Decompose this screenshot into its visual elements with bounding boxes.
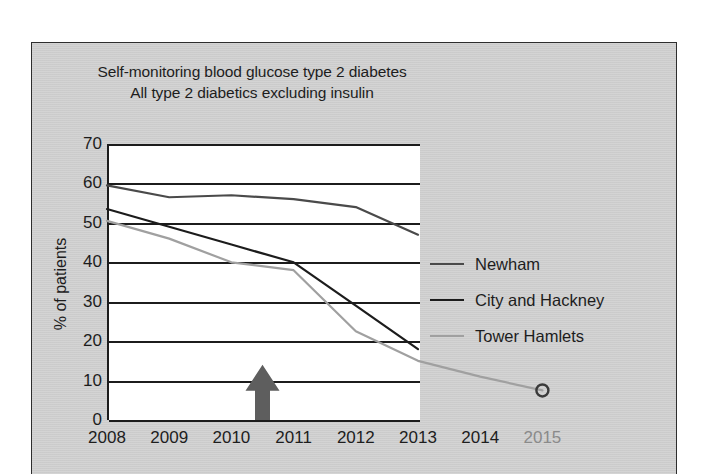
chart-title-line-2: All type 2 diabetics excluding insulin bbox=[32, 82, 472, 103]
legend-line-swatch-icon bbox=[430, 335, 464, 337]
y-tick-label-60: 60 bbox=[83, 173, 102, 193]
x-tick-label-2011: 2011 bbox=[275, 428, 312, 448]
chart-title: Self-monitoring blood glucose type 2 dia… bbox=[32, 61, 472, 103]
legend-item-label: Newham bbox=[475, 255, 540, 274]
x-tick-label-2015: 2015 bbox=[523, 428, 561, 448]
gridline-0 bbox=[109, 420, 420, 422]
x-tick-label-2013: 2013 bbox=[399, 428, 437, 448]
gridline-40 bbox=[109, 262, 420, 264]
gridline-50 bbox=[109, 223, 420, 225]
y-tick-label-50: 50 bbox=[83, 213, 102, 233]
legend-item-label: Tower Hamlets bbox=[475, 327, 584, 346]
plot-area: 706050403020100 bbox=[107, 144, 420, 420]
legend-item-tower-hamlets[interactable]: Tower Hamlets bbox=[430, 318, 660, 354]
gridline-60 bbox=[109, 183, 420, 185]
legend-item-newham[interactable]: Newham bbox=[430, 246, 660, 282]
legend-line-swatch-icon bbox=[430, 263, 464, 265]
x-axis-ticks: 20082009201020112012201320142015 bbox=[32, 428, 676, 458]
y-tick-label-40: 40 bbox=[83, 252, 102, 272]
x-tick-label-2014: 2014 bbox=[461, 428, 499, 448]
y-tick-label-70: 70 bbox=[83, 134, 102, 154]
x-tick-label-2009: 2009 bbox=[150, 428, 188, 448]
y-tick-label-30: 30 bbox=[83, 292, 102, 312]
legend-item-label: City and Hackney bbox=[475, 291, 604, 310]
legend-item-city-and-hackney[interactable]: City and Hackney bbox=[430, 282, 660, 318]
x-tick-label-2008: 2008 bbox=[88, 428, 126, 448]
x-tick-label-2010: 2010 bbox=[212, 428, 250, 448]
gridline-20 bbox=[109, 341, 420, 343]
y-tick-label-20: 20 bbox=[83, 331, 102, 351]
gridline-30 bbox=[109, 302, 420, 304]
gridline-10 bbox=[109, 381, 420, 383]
chart-title-line-1: Self-monitoring blood glucose type 2 dia… bbox=[32, 61, 472, 82]
y-axis-label: % of patients bbox=[52, 199, 70, 369]
gridline-70 bbox=[109, 144, 420, 146]
legend-line-swatch-icon bbox=[430, 299, 464, 301]
y-tick-label-10: 10 bbox=[83, 371, 102, 391]
figure-panel: Self-monitoring blood glucose type 2 dia… bbox=[31, 42, 677, 474]
x-tick-label-2012: 2012 bbox=[337, 428, 375, 448]
y-tick-label-0: 0 bbox=[93, 410, 102, 430]
chart-legend: NewhamCity and HackneyTower Hamlets bbox=[430, 246, 660, 354]
series-endpoint-marker-tower-hamlets bbox=[536, 384, 548, 396]
